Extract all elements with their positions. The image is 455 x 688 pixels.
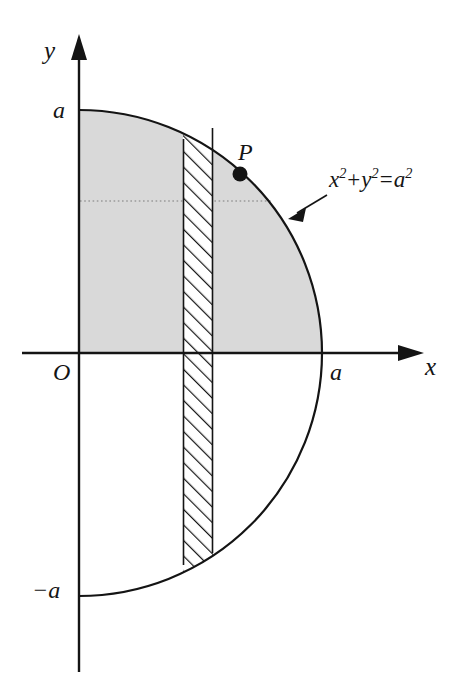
equation-a: a (394, 167, 406, 192)
equation-equals: = (379, 167, 394, 192)
equation-x: x (329, 167, 339, 192)
circle-equation-label: x2+y2=a2 (329, 168, 412, 191)
equation-leader-arrow (288, 195, 327, 222)
y-axis-label: y (44, 38, 55, 63)
equation-y: y (361, 167, 371, 192)
point-p-label: P (238, 140, 253, 164)
equation-a-exponent: 2 (405, 165, 412, 181)
hatched-strip (183, 100, 213, 600)
figure-graphic (0, 0, 455, 688)
figure-canvas: y x O a a −a P x2+y2=a2 (0, 0, 455, 688)
x-axis-label: x (425, 354, 436, 379)
origin-label: O (53, 360, 70, 384)
x-tick-label-a: a (330, 360, 342, 384)
equation-y-exponent: 2 (372, 165, 379, 181)
point-p-marker (233, 167, 248, 182)
y-tick-label-a: a (53, 98, 65, 122)
y-tick-label-negative-a: −a (32, 578, 60, 602)
equation-plus: + (346, 167, 361, 192)
